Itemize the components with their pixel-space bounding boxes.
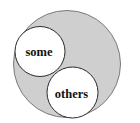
label-some: some bbox=[25, 45, 53, 59]
label-others: others bbox=[55, 87, 88, 101]
venn-diagram: some others bbox=[0, 0, 140, 123]
